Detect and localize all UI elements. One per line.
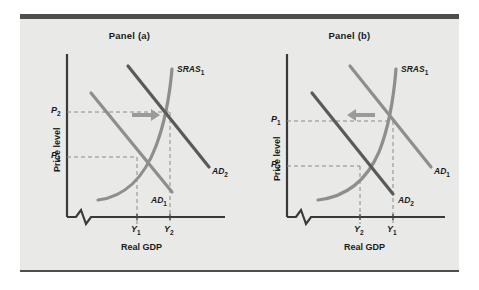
panel-a-p-lower-label: P1: [51, 150, 61, 162]
panel-b-sras1-curve: [318, 69, 396, 200]
panel-a-sras1-label: SRAS1: [177, 64, 204, 76]
panel-b-x-axis-label: Real GDP: [344, 242, 385, 252]
panel-a-p-upper-label: P2: [51, 105, 61, 117]
panel-b-y-left-label: Y2: [354, 224, 364, 236]
panel-a-ad2-label: AD2: [212, 166, 228, 178]
panel-b-shift-arrow-left-icon: [347, 109, 375, 121]
panel-b: Panel (b) Price level P1: [240, 14, 459, 272]
panel-b-sras1-label: SRAS1: [401, 64, 428, 76]
panel-b-p-lower-label: P2: [271, 159, 281, 171]
panel-a-shift-arrow-right-icon: [132, 109, 160, 121]
panel-a-y-right-label: Y2: [164, 224, 174, 236]
panel-b-y-right-label: Y1: [387, 224, 397, 236]
panel-a: Panel (a) Price level: [20, 14, 239, 272]
figure-frame: Panel (a) Price level: [20, 14, 459, 272]
panel-a-x-axis-with-break: [67, 210, 225, 224]
panel-b-x-axis-with-break: [287, 210, 445, 224]
panel-a-y-left-label: Y1: [131, 224, 141, 236]
panel-a-x-axis-label: Real GDP: [121, 242, 162, 252]
panel-b-ad2-label: AD2: [398, 195, 414, 207]
panel-a-ad1-label: AD1: [151, 195, 167, 207]
panel-b-p-upper-label: P1: [271, 114, 281, 126]
panel-b-ad1-label: AD1: [434, 166, 450, 178]
